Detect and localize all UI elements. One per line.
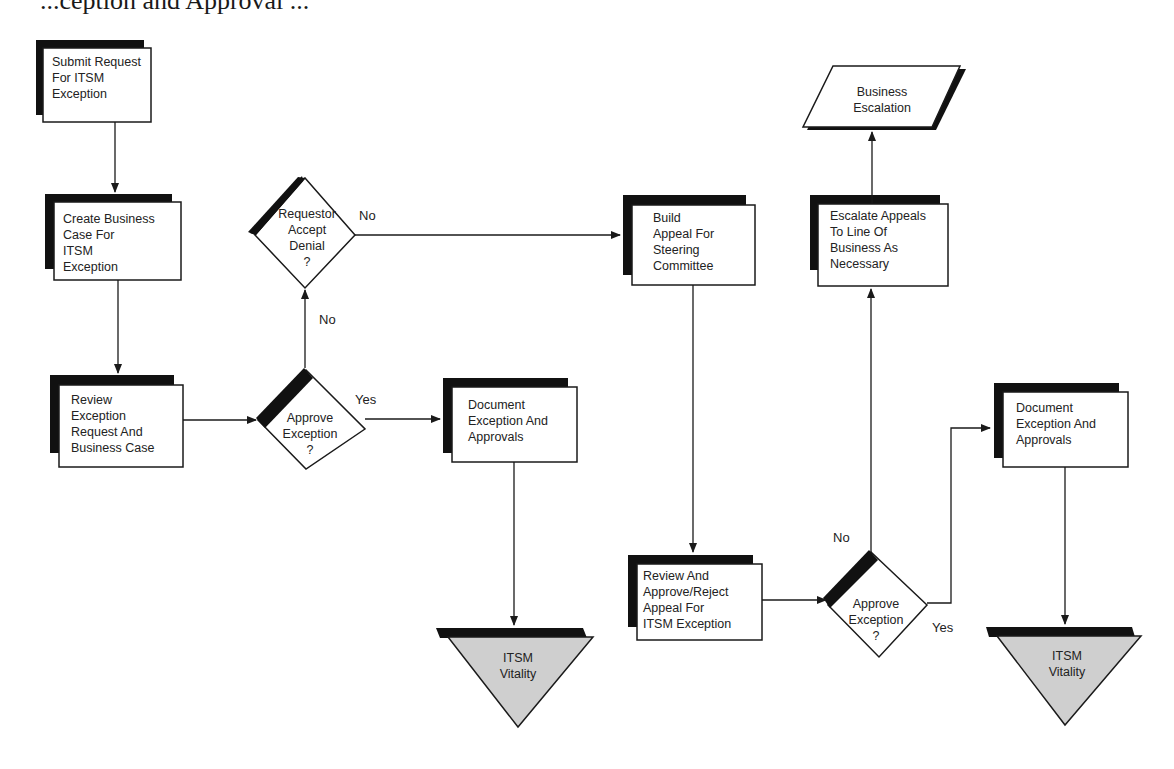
text-line: ITSM — [1027, 648, 1107, 664]
label-approve-exception-1: Approve Exception ? — [265, 410, 355, 458]
text-line: Steering — [653, 242, 714, 258]
text-line: Approve — [836, 596, 916, 612]
text-line: Exception — [265, 426, 355, 442]
text-line: Committee — [653, 258, 714, 274]
text-line: For ITSM — [52, 70, 141, 86]
text-line: Exception — [63, 259, 155, 275]
text-line: ITSM Exception — [643, 616, 731, 632]
text-line: Document — [468, 397, 548, 413]
text-line: Vitality — [478, 666, 558, 682]
edge-label-approve2-no: No — [833, 530, 850, 545]
label-escalate-appeals: Escalate Appeals To Line Of Business As … — [830, 208, 926, 272]
edge-label-approve1-no: No — [319, 312, 336, 327]
text-line: ? — [836, 628, 916, 644]
label-document-exception-1: Document Exception And Approvals — [468, 397, 548, 445]
label-review-approve-reject-appeal: Review And Approve/Reject Appeal For ITS… — [643, 568, 731, 632]
text-line: Necessary — [830, 256, 926, 272]
text-line: Vitality — [1027, 664, 1107, 680]
label-build-appeal: Build Appeal For Steering Committee — [653, 210, 714, 274]
text-line: Build — [653, 210, 714, 226]
label-document-exception-2: Document Exception And Approvals — [1016, 400, 1096, 448]
text-line: Escalation — [842, 100, 922, 116]
text-line: To Line Of — [830, 224, 926, 240]
text-line: Denial — [262, 238, 352, 254]
text-line: Business Case — [71, 440, 154, 456]
text-line: ITSM — [63, 243, 155, 259]
flowchart-canvas — [0, 0, 1174, 769]
text-line: Document — [1016, 400, 1096, 416]
label-approve-exception-2: Approve Exception ? — [836, 596, 916, 644]
text-line: Approve/Reject — [643, 584, 731, 600]
text-line: ? — [265, 442, 355, 458]
text-line: Escalate Appeals — [830, 208, 926, 224]
edge-approve2-yes — [927, 428, 990, 603]
text-line: ? — [262, 254, 352, 270]
text-line: Business — [842, 84, 922, 100]
label-submit-request: Submit Request For ITSM Exception — [52, 54, 141, 102]
label-requestor-accept-denial: Requestor Accept Denial ? — [262, 206, 352, 270]
label-itsm-vitality-2: ITSM Vitality — [1027, 648, 1107, 680]
text-line: Request And — [71, 424, 154, 440]
text-line: Create Business — [63, 211, 155, 227]
label-itsm-vitality-1: ITSM Vitality — [478, 650, 558, 682]
text-line: Requestor — [262, 206, 352, 222]
text-line: ITSM — [478, 650, 558, 666]
text-line: Submit Request — [52, 54, 141, 70]
text-line: Appeal For — [653, 226, 714, 242]
text-line: Review And — [643, 568, 731, 584]
text-line: Exception — [52, 86, 141, 102]
text-line: Case For — [63, 227, 155, 243]
label-create-business-case: Create Business Case For ITSM Exception — [63, 211, 155, 275]
text-line: Exception And — [468, 413, 548, 429]
text-line: Business As — [830, 240, 926, 256]
label-review-exception-request: Review Exception Request And Business Ca… — [71, 392, 154, 456]
text-line: Exception And — [1016, 416, 1096, 432]
text-line: Approvals — [468, 429, 548, 445]
text-line: Exception — [71, 408, 154, 424]
text-line: Review — [71, 392, 154, 408]
text-line: Appeal For — [643, 600, 731, 616]
text-line: Accept — [262, 222, 352, 238]
text-line: Approve — [265, 410, 355, 426]
edge-label-approve1-yes: Yes — [355, 392, 376, 407]
edge-label-approve2-yes: Yes — [932, 620, 953, 635]
text-line: Exception — [836, 612, 916, 628]
label-business-escalation: Business Escalation — [842, 84, 922, 116]
edge-label-requestor-no: No — [359, 208, 376, 223]
text-line: Approvals — [1016, 432, 1096, 448]
